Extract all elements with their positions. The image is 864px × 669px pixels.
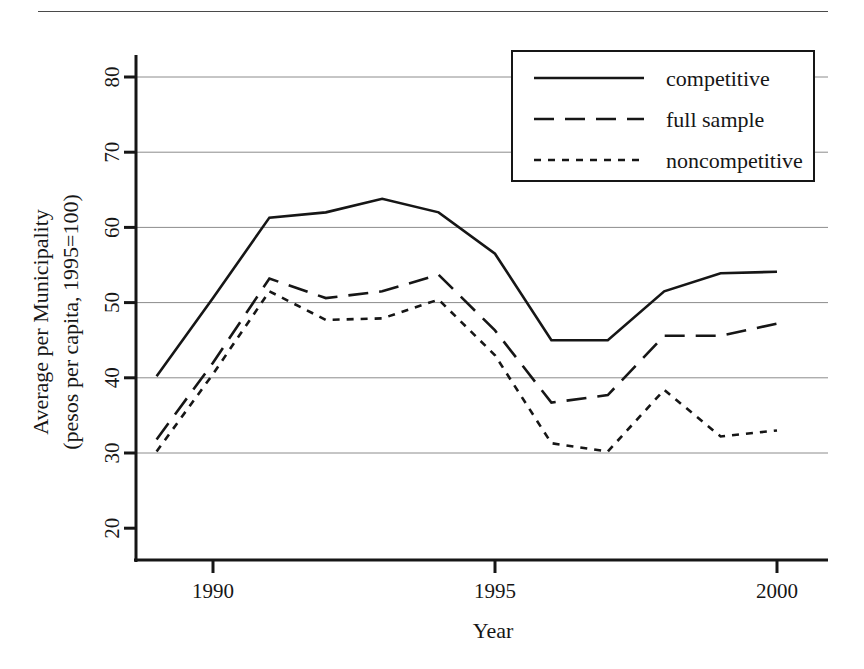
y-tick-label: 80 <box>100 67 124 88</box>
x-axis-ticks: 199019952000 <box>192 560 798 603</box>
y-axis-title: Average per Municipality (pesos per capi… <box>28 194 83 450</box>
y-tick-label: 30 <box>100 443 124 464</box>
y-tick-label: 50 <box>100 292 124 313</box>
line-chart: 20304050607080 199019952000 Average per … <box>0 0 864 669</box>
legend-label-noncompetitive: noncompetitive <box>666 148 803 173</box>
y-tick-label: 40 <box>100 367 124 388</box>
x-tick-label: 1995 <box>474 579 516 603</box>
series-line-full-sample <box>157 275 777 440</box>
y-tick-label: 60 <box>100 217 124 238</box>
series-line-competitive <box>157 199 777 376</box>
x-tick-label: 2000 <box>756 579 798 603</box>
data-series-layer <box>157 199 777 452</box>
y-tick-label: 70 <box>100 142 124 163</box>
legend: competitivefull samplenoncompetitive <box>512 51 814 181</box>
y-axis-ticks: 20304050607080 <box>100 67 136 539</box>
legend-label-full-sample: full sample <box>666 107 764 132</box>
y-tick-label: 20 <box>100 518 124 539</box>
x-tick-label: 1990 <box>192 579 234 603</box>
x-axis-title: Year <box>473 618 514 643</box>
series-line-noncompetitive <box>157 291 777 451</box>
figure-page: 20304050607080 199019952000 Average per … <box>0 0 864 669</box>
legend-label-competitive: competitive <box>666 66 770 91</box>
y-axis-title-line1: Average per Municipality <box>28 209 53 435</box>
y-axis-title-line2: (pesos per capita, 1995=100) <box>58 194 83 450</box>
